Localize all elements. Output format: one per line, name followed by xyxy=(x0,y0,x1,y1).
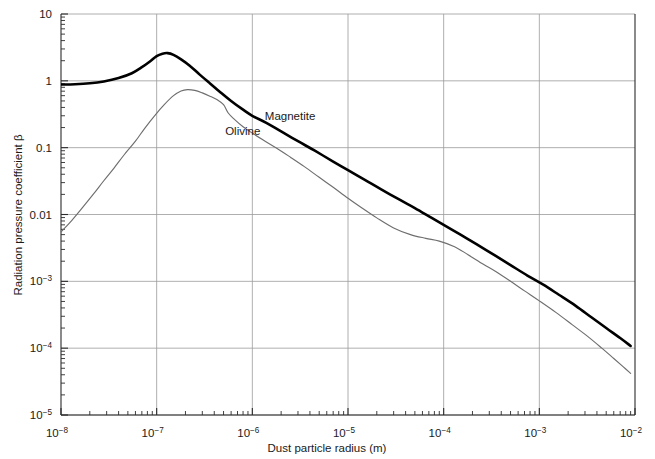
tick-label: 0.1 xyxy=(36,142,52,154)
y-axis-title: Radiation pressure coefficient β xyxy=(12,134,24,295)
x-axis-title: Dust particle radius (m) xyxy=(268,442,387,454)
tick-label: 10 xyxy=(39,8,52,20)
series-label-magnetite: Magnetite xyxy=(265,110,316,122)
tick-label: 0.01 xyxy=(30,209,52,221)
chart-figure: 10−810−710−610−510−410−310−21010.10.0110… xyxy=(0,0,655,459)
chart-background xyxy=(0,0,655,459)
tick-label: 1 xyxy=(46,75,52,87)
series-label-olivine: Olivine xyxy=(225,125,260,137)
radiation-pressure-chart: 10−810−710−610−510−410−310−21010.10.0110… xyxy=(0,0,655,459)
